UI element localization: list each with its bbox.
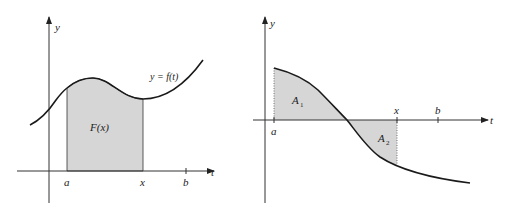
tick-label-a: a bbox=[271, 125, 277, 137]
tick-label-x: x bbox=[139, 176, 145, 188]
tick-label-x: x bbox=[393, 104, 399, 116]
y-axis-label: y bbox=[54, 21, 60, 33]
y-axis-label: y bbox=[269, 17, 275, 29]
diagram-canvas: y t y = f(t) F(x) a x b y t A 1 A 2 a x … bbox=[0, 0, 506, 220]
area-A2-shaded bbox=[347, 120, 397, 165]
area-A1-shaded bbox=[274, 68, 347, 120]
left-plot: y t y = f(t) F(x) a x b bbox=[17, 17, 215, 203]
x-axis-label: t bbox=[490, 114, 494, 126]
svg-text:A: A bbox=[291, 94, 299, 106]
area-label: F(x) bbox=[89, 121, 109, 134]
curve-label: y = f(t) bbox=[149, 71, 179, 83]
svg-text:1: 1 bbox=[300, 101, 304, 109]
tick-label-a: a bbox=[64, 176, 70, 188]
svg-text:2: 2 bbox=[386, 139, 390, 147]
tick-label-b: b bbox=[183, 176, 189, 188]
x-axis-label: t bbox=[211, 166, 215, 178]
svg-text:A: A bbox=[377, 132, 385, 144]
tick-label-b: b bbox=[435, 104, 441, 116]
right-plot: y t A 1 A 2 a x b bbox=[253, 17, 494, 203]
